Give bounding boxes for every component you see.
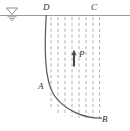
slip-surface-diagram xyxy=(0,0,130,131)
label-A: A xyxy=(38,82,44,91)
dashed-flow-lines xyxy=(51,17,100,118)
label-B: B xyxy=(102,115,108,124)
figure-canvas: D C A B P xyxy=(0,0,130,131)
water-table-icon xyxy=(7,8,18,20)
label-D: D xyxy=(43,3,50,12)
label-P: P xyxy=(79,50,85,59)
label-C: C xyxy=(91,3,97,12)
